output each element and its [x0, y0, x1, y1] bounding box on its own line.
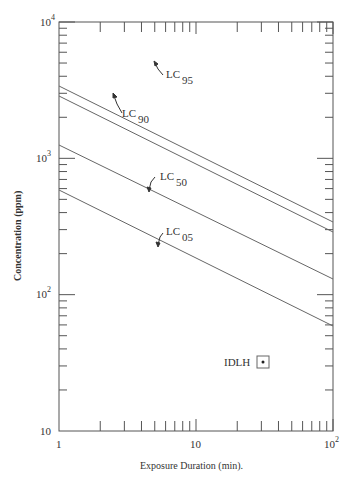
idlh-label: IDLH [224, 356, 250, 368]
axis-ticks [59, 22, 333, 431]
x-tick-1: 1 [56, 438, 62, 450]
x-axis-title: Exposure Duration (min). [140, 460, 243, 472]
y-tick-10000: 104 [40, 13, 55, 28]
line-lc05 [59, 190, 333, 326]
label-arrows [113, 61, 163, 247]
label-lc95: LC95 [166, 68, 194, 86]
label-lc50: LC50 [160, 170, 188, 188]
line-lc95 [59, 86, 333, 222]
y-tick-100: 102 [36, 285, 51, 300]
arrow-lc90-icon [114, 96, 122, 113]
label-lc05: LC05 [166, 225, 194, 243]
arrow-lc50-head-icon [147, 187, 151, 192]
idlh-marker-dot-icon [262, 361, 265, 364]
plot-frame [59, 22, 333, 431]
arrow-lc95-head-icon [154, 61, 158, 66]
y-tick-10: 10 [40, 425, 52, 437]
x-tick-10: 10 [190, 438, 202, 450]
chart: LC95 LC90 LC50 LC05 IDLH 104 103 102 10 … [0, 0, 352, 477]
arrow-lc05-head-icon [156, 242, 160, 247]
label-lc90: LC90 [122, 107, 150, 125]
y-axis-title: Concentration (ppm) [12, 191, 24, 281]
series-lines [59, 86, 333, 326]
x-tick-100: 102 [324, 435, 339, 450]
arrow-lc90-head-icon [113, 93, 117, 98]
y-tick-1000: 103 [36, 149, 51, 164]
